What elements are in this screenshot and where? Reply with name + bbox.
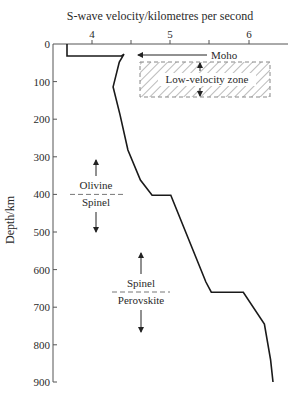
chart-title: S-wave velocity/kilometres per second <box>67 9 253 23</box>
y-tick-400: 400 <box>34 188 51 200</box>
x-tick-6: 6 <box>246 28 252 40</box>
y-tick-900: 900 <box>34 376 51 388</box>
y-axis: 0 100 200 300 400 500 600 700 800 900 De… <box>3 38 57 388</box>
velocity-depth-chart: S-wave velocity/kilometres per second 4 … <box>0 0 299 408</box>
y-axis-label: Depth/km <box>3 195 17 244</box>
y-tick-300: 300 <box>34 151 51 163</box>
y-tick-700: 700 <box>34 301 51 313</box>
x-axis: 4 5 6 <box>53 28 288 44</box>
y-tick-0: 0 <box>45 38 51 50</box>
x-tick-5: 5 <box>167 28 173 40</box>
moho-annotation: Moho <box>138 49 238 61</box>
moho-label: Moho <box>211 49 238 61</box>
y-tick-500: 500 <box>34 226 51 238</box>
y-tick-200: 200 <box>34 113 51 125</box>
x-tick-4: 4 <box>89 28 95 40</box>
spinel-label-upper: Spinel <box>82 196 110 208</box>
low-velocity-zone-label: Low-velocity zone <box>166 73 249 85</box>
olivine-spinel-boundary: Olivine Spinel <box>70 160 124 232</box>
y-tick-100: 100 <box>34 76 51 88</box>
perovskite-label: Perovskite <box>118 294 165 306</box>
spinel-perovskite-boundary: Spinel Perovskite <box>112 253 170 332</box>
y-tick-800: 800 <box>34 339 51 351</box>
y-tick-600: 600 <box>34 264 51 276</box>
olivine-label: Olivine <box>80 179 113 191</box>
low-velocity-zone: Low-velocity zone <box>140 62 270 97</box>
spinel-label-lower: Spinel <box>127 277 155 289</box>
